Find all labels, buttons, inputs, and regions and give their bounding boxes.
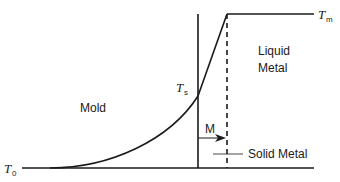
solid-temperature-line xyxy=(198,14,227,96)
liquid-label: Liquid xyxy=(258,44,290,58)
solid-metal-label: Solid Metal xyxy=(248,147,307,161)
mold-label: Mold xyxy=(80,101,106,115)
t-melt-subscript: m xyxy=(326,15,333,24)
t-surface-label: T xyxy=(176,80,184,95)
metal-label: Metal xyxy=(258,61,287,75)
t-initial-label: T xyxy=(4,161,12,176)
interface-motion-label: M xyxy=(205,122,215,136)
t-initial-subscript: 0 xyxy=(12,169,17,178)
casting-temperature-diagram: Mold Liquid Metal Solid Metal M T m T s … xyxy=(0,0,340,182)
t-surface-subscript: s xyxy=(184,88,188,97)
mold-temperature-curve xyxy=(50,96,198,168)
t-melt-label: T xyxy=(318,7,326,22)
